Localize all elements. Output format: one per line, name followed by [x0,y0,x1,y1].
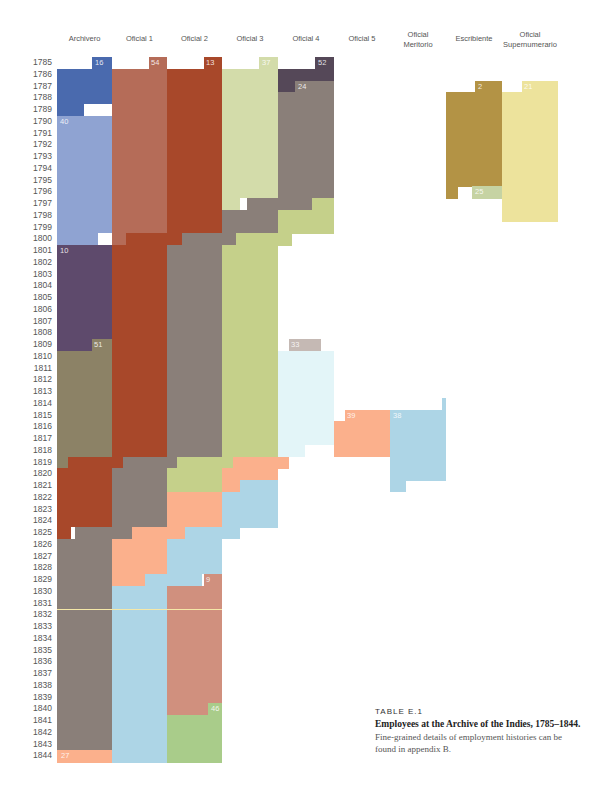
employment-block [57,468,112,527]
employment-block [278,92,334,198]
year-label: 1789 [14,104,52,116]
employment-block [57,351,112,457]
year-label: 1809 [14,339,52,351]
employment-block [57,527,71,539]
employee-id: 33 [291,340,299,350]
column-header: Oficial 4 [278,34,334,44]
employee-id: 27 [61,751,69,761]
employee-id: 24 [298,82,306,92]
employment-block [167,539,222,575]
year-label: 1821 [14,480,52,492]
employment-block [390,480,406,492]
employee-id: 10 [60,246,68,256]
employment-block [222,69,278,199]
year-label: 1793 [14,151,52,163]
employee-id: 52 [318,58,326,68]
year-label: 1805 [14,292,52,304]
employment-block [222,527,240,539]
column-header: Oficial 2 [167,34,222,44]
year-label: 1798 [14,210,52,222]
year-label: 1839 [14,692,52,704]
year-label: 1807 [14,316,52,328]
year-label: 1819 [14,457,52,469]
column-header: Oficial 1 [112,34,167,44]
employee-id: 37 [262,58,270,68]
employee-id: 2 [478,82,482,92]
column-header: Oficial 3 [222,34,278,44]
employee-id: 38 [393,411,401,421]
employment-block [185,527,222,539]
year-label: 1813 [14,386,52,398]
employment-block [112,527,132,539]
employment-block [112,69,167,234]
employment-block [502,92,558,222]
employment-block [312,198,334,210]
employment-block [145,574,167,586]
year-label: 1792 [14,139,52,151]
employment-block [222,210,278,234]
employee-id: 16 [95,58,103,68]
employment-block [57,104,84,116]
employment-block [278,445,305,457]
year-label: 1828 [14,562,52,574]
table-caption: TABLE E.1 Employees at the Archive of th… [375,707,585,755]
employment-block [57,233,98,245]
employment-block [167,457,177,469]
employment-block [222,233,236,245]
year-label: 1808 [14,327,52,339]
employment-block [278,233,292,245]
employment-block [240,480,278,492]
gap [71,527,75,539]
employment-block [57,457,68,469]
year-label: 1827 [14,551,52,563]
year-label: 1806 [14,304,52,316]
employee-id: 25 [475,187,483,197]
employment-block [112,539,167,575]
year-label: 1797 [14,198,52,210]
employment-block [446,92,502,187]
employment-block [112,574,145,586]
year-label: 1823 [14,504,52,516]
year-label: 1825 [14,527,52,539]
year-label: 1816 [14,421,52,433]
column-header: Archivero [57,34,112,44]
year-label: 1837 [14,668,52,680]
employment-block [167,574,202,586]
year-label: 1817 [14,433,52,445]
employment-block [112,468,167,527]
year-label: 1818 [14,445,52,457]
employment-block [57,116,112,234]
year-label: 1831 [14,598,52,610]
year-label: 1785 [14,57,52,69]
employment-block [278,351,334,446]
year-label: 1829 [14,574,52,586]
employment-block [247,198,278,210]
table-title: Employees at the Archive of the Indies, … [375,718,585,731]
employment-block [167,468,222,492]
employment-block [57,245,112,340]
employment-block [167,233,182,245]
employment-block [57,69,112,105]
employee-id: 21 [524,82,532,92]
year-label: 1794 [14,163,52,175]
gap [240,198,247,210]
employment-block [442,398,446,410]
employee-id: 40 [60,117,68,127]
year-label: 1826 [14,539,52,551]
gap [202,574,204,586]
year-label: 1810 [14,351,52,363]
employment-block [68,457,112,469]
employment-block [57,539,112,751]
year-label: 1799 [14,222,52,234]
employee-id: 9 [206,575,210,585]
table-label: TABLE E.1 [375,707,585,716]
employment-block [278,69,334,81]
year-label: 1804 [14,280,52,292]
employment-block [167,527,185,539]
year-label: 1835 [14,645,52,657]
employment-block [182,233,222,245]
year-label: 1796 [14,186,52,198]
employee-id: 54 [151,58,159,68]
employment-block [334,421,390,457]
employment-chart: ArchiveroOficial 1Oficial 2Oficial 3Ofic… [0,0,600,802]
